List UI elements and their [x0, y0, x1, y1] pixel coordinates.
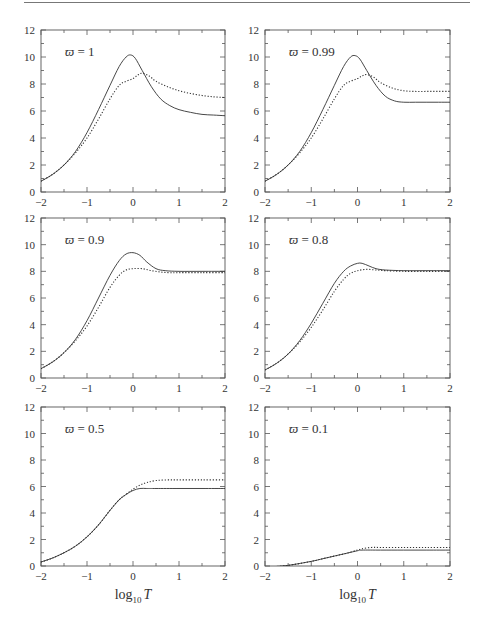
y-tick-label: 0: [30, 560, 36, 572]
y-tick-label: 4: [30, 132, 36, 144]
panel-top-left: −2−1012024681012ϖ = 1: [24, 24, 228, 208]
x-tick-label: 1: [176, 382, 182, 394]
x-tick-label: −2: [259, 570, 271, 582]
x-tick-label: −2: [35, 570, 47, 582]
x-tick-label: 2: [447, 570, 453, 582]
y-tick-label: 6: [254, 292, 260, 304]
y-tick-label: 2: [30, 345, 36, 357]
x-axis-label: log10T: [339, 587, 377, 605]
x-tick-label: 1: [401, 196, 407, 208]
y-tick-label: 0: [30, 186, 36, 198]
y-tick-label: 12: [248, 401, 259, 413]
x-tick-label: 1: [401, 570, 407, 582]
y-tick-label: 12: [24, 24, 35, 36]
y-tick-label: 8: [254, 78, 260, 90]
dotted-curve: [41, 73, 225, 181]
x-tick-label: 1: [401, 382, 407, 394]
y-tick-label: 0: [30, 372, 36, 384]
omega-annotation: ϖ = 0.99: [289, 44, 335, 59]
x-tick-label: −1: [305, 570, 317, 582]
panel-bottom-left: −2−1012024681012ϖ = 0.5log10T: [24, 401, 228, 605]
dotted-curve: [41, 480, 225, 562]
x-tick-label: 2: [447, 382, 453, 394]
y-tick-label: 12: [248, 212, 259, 224]
y-tick-label: 0: [254, 372, 260, 384]
y-tick-label: 2: [254, 345, 260, 357]
y-tick-label: 8: [30, 78, 36, 90]
panel-middle-left: −2−1012024681012ϖ = 0.9: [24, 212, 228, 394]
x-tick-label: −1: [305, 382, 317, 394]
x-tick-label: 1: [176, 196, 182, 208]
panel-middle-right: −2−1012024681012ϖ = 0.8: [248, 212, 453, 394]
y-tick-label: 8: [30, 265, 36, 277]
solid-curve: [41, 55, 225, 181]
y-tick-label: 0: [254, 186, 260, 198]
solid-curve: [41, 253, 225, 369]
y-tick-label: 2: [30, 159, 36, 171]
y-tick-label: 6: [30, 292, 36, 304]
figure-grid: −2−1012024681012ϖ = 1−2−1012024681012ϖ =…: [0, 0, 478, 621]
x-tick-label: −2: [259, 382, 271, 394]
x-tick-label: 0: [355, 196, 361, 208]
x-tick-label: 0: [355, 570, 361, 582]
dotted-curve: [265, 75, 450, 182]
x-tick-label: 2: [222, 570, 228, 582]
omega-annotation: ϖ = 0.1: [289, 421, 328, 436]
solid-curve: [265, 263, 450, 370]
y-tick-label: 12: [248, 24, 259, 36]
x-tick-label: −2: [35, 382, 47, 394]
dotted-curve: [265, 269, 450, 370]
panel-top-right: −2−1012024681012ϖ = 0.99: [248, 24, 453, 208]
x-axis-label: log10T: [115, 587, 153, 605]
y-tick-label: 8: [254, 265, 260, 277]
y-tick-label: 10: [24, 239, 36, 251]
y-tick-label: 0: [254, 560, 260, 572]
x-tick-label: −1: [81, 196, 93, 208]
y-tick-label: 4: [254, 507, 260, 519]
omega-annotation: ϖ = 1: [65, 44, 95, 59]
y-tick-label: 4: [254, 132, 260, 144]
y-tick-label: 10: [248, 51, 260, 63]
x-tick-label: 0: [130, 196, 136, 208]
y-tick-label: 2: [254, 534, 260, 546]
y-tick-label: 10: [24, 51, 36, 63]
y-tick-label: 6: [254, 481, 260, 493]
x-tick-label: 2: [222, 382, 228, 394]
solid-curve: [41, 488, 225, 562]
x-tick-label: −1: [81, 382, 93, 394]
omega-annotation: ϖ = 0.5: [65, 421, 104, 436]
y-tick-label: 10: [24, 428, 36, 440]
y-tick-label: 6: [30, 481, 36, 493]
y-tick-label: 2: [30, 534, 36, 546]
x-tick-label: −2: [259, 196, 271, 208]
x-tick-label: 0: [130, 570, 136, 582]
x-tick-label: 2: [222, 196, 228, 208]
y-tick-label: 10: [248, 239, 260, 251]
y-tick-label: 4: [254, 319, 260, 331]
dotted-curve: [41, 268, 225, 368]
x-tick-label: 0: [130, 382, 136, 394]
x-tick-label: −1: [81, 570, 93, 582]
y-tick-label: 2: [254, 159, 260, 171]
y-tick-label: 6: [30, 105, 36, 117]
y-tick-label: 4: [30, 507, 36, 519]
solid-curve: [265, 55, 450, 181]
omega-annotation: ϖ = 0.8: [289, 232, 328, 247]
y-tick-label: 12: [24, 212, 35, 224]
x-tick-label: 2: [447, 196, 453, 208]
omega-annotation: ϖ = 0.9: [65, 232, 104, 247]
y-tick-label: 6: [254, 105, 260, 117]
y-tick-label: 10: [248, 428, 260, 440]
y-tick-label: 4: [30, 319, 36, 331]
x-tick-label: −2: [35, 196, 47, 208]
y-tick-label: 8: [30, 454, 36, 466]
y-tick-label: 12: [24, 401, 35, 413]
y-tick-label: 8: [254, 454, 260, 466]
x-tick-label: −1: [305, 196, 317, 208]
panel-bottom-right: −2−1012024681012ϖ = 0.1log10T: [248, 401, 453, 605]
x-tick-label: 1: [176, 570, 182, 582]
x-tick-label: 0: [355, 382, 361, 394]
